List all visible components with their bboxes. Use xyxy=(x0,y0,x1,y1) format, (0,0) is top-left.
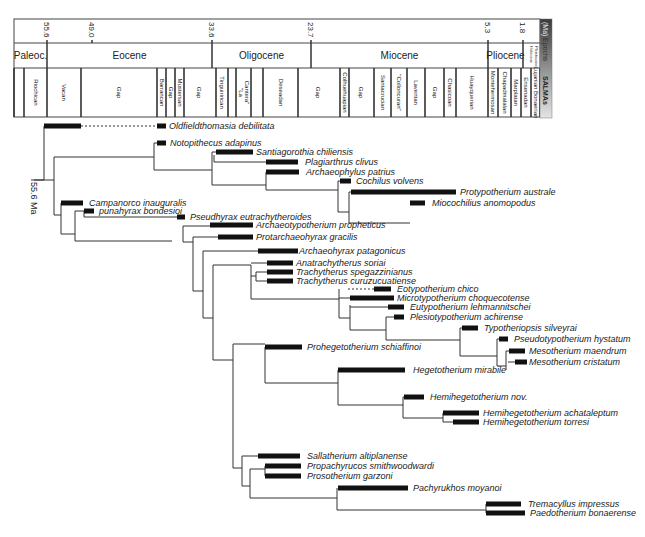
stratigraphic-range-bar xyxy=(338,368,405,373)
salma-label: "La xyxy=(238,88,244,97)
stratigraphic-range-bar xyxy=(350,296,394,301)
stratigraphic-range-bar xyxy=(216,150,253,155)
taxon-label: Protypotherium australe xyxy=(460,187,556,197)
stratigraphic-range-bar xyxy=(265,464,301,469)
axis-unit-label: (Ma) xyxy=(541,22,549,36)
stratigraphic-range-bar xyxy=(157,141,166,146)
header-side-labels: (Ma)EpochsSALMAs xyxy=(540,19,552,118)
stratigraphic-range-bar xyxy=(394,315,404,320)
salma-label: Vacan xyxy=(61,84,67,101)
stratigraphic-range-bar xyxy=(453,420,479,425)
stratigraphic-range-bar xyxy=(267,261,293,266)
stratigraphic-range-bar xyxy=(258,454,300,459)
salma-label: Ensenadan xyxy=(523,77,529,107)
stratigraphic-range-bar xyxy=(157,124,166,129)
salma-label: Gap xyxy=(358,87,364,99)
taxon-label: Plagiarthrus clivus xyxy=(305,157,379,167)
stratigraphic-range-bar xyxy=(210,223,253,228)
taxon-label: Hemihegetotherium torresi xyxy=(483,417,590,427)
stratigraphic-range-bar xyxy=(84,209,94,214)
tick-label: 49.0 xyxy=(87,22,96,38)
taxon-label: Propachyrucos smithwoodwardi xyxy=(307,461,435,471)
taxon-label: Paedotherium bonaerense xyxy=(530,508,636,518)
stratigraphic-range-bar xyxy=(351,190,456,195)
cladogram: 55.6 MaOldfieldthomasia debilitataNotopi… xyxy=(29,121,636,518)
salmas-row-label: SALMAs xyxy=(542,76,549,105)
salma-label: "Colloncuran" xyxy=(396,74,402,110)
stratigraphic-range-bar xyxy=(462,326,478,331)
taxon-label: Mesotherium maendrum xyxy=(529,346,627,356)
salma-label: Chapadmalalan xyxy=(502,71,508,113)
stratigraphic-range-bar xyxy=(267,270,293,275)
taxon-label: Typotheriopsis silveyrai xyxy=(484,323,578,333)
tick-label: 1.8 xyxy=(518,22,527,34)
epoch-label: Holocene xyxy=(529,46,534,64)
stratigraphic-range-bar xyxy=(374,287,391,292)
stratigraphic-range-bar xyxy=(499,337,508,342)
taxon-label: Pachyrukhos moyanoi xyxy=(413,483,503,493)
salma-label: Lujanian Bonaerian xyxy=(533,67,539,119)
stratigraphic-range-bar xyxy=(266,170,299,175)
stratigraphic-range-bar xyxy=(515,360,527,365)
stratigraphic-range-bar xyxy=(266,160,298,165)
stratigraphic-range-bar xyxy=(267,279,293,284)
stratigraphic-range-bar xyxy=(265,345,302,350)
stratigraphic-range-bar xyxy=(486,502,521,507)
taxon-label: Miocochilius anomopodus xyxy=(432,198,536,208)
stratigraphic-range-bar xyxy=(177,215,185,220)
taxon-label: Archaeotypotherium propheticus xyxy=(255,220,386,230)
epoch-label: Miocene xyxy=(381,50,419,61)
salma-label: Chasicoan xyxy=(447,78,453,106)
salma-label: Deseadan xyxy=(278,79,284,106)
stratigraphic-range-bar xyxy=(486,511,525,516)
node-age-annotation: 55.6 Ma xyxy=(29,182,39,215)
epoch-label: Oligocene xyxy=(239,50,284,61)
taxon-label: Prosotherium garzoni xyxy=(307,471,394,481)
tick-label: 33.6 xyxy=(207,22,216,38)
salma-label: Huayquerian xyxy=(469,75,475,109)
tick-label: 55.6 xyxy=(42,22,51,38)
tick-label: 23.7 xyxy=(306,22,315,38)
taxon-label: Eutypotherium lehmannitschei xyxy=(410,302,532,312)
taxon-label: Pseudotypotherium hystatum xyxy=(514,334,631,344)
taxon-label: Cochilus volvens xyxy=(356,176,424,186)
salma-label: Gap xyxy=(116,87,122,99)
taxon-label: Protarchaeohyrax gracilis xyxy=(256,232,358,242)
stratigraphic-range-bar xyxy=(338,486,408,491)
salma-label: Marplatan xyxy=(513,79,519,106)
taxon-label: Notopithecus adapinus xyxy=(170,138,262,148)
stratigraphic-range-bar xyxy=(218,235,253,240)
stratigraphic-range-bar xyxy=(443,411,479,416)
salma-label: Gap xyxy=(315,87,321,99)
stratigraphic-range-bar xyxy=(388,305,404,310)
stratigraphic-range-bar xyxy=(265,474,301,479)
epoch-label: Pleistocene xyxy=(534,46,539,67)
salma-label: Riochican xyxy=(33,79,39,105)
taxon-label: Hegetotherium mirabile xyxy=(413,365,506,375)
taxon-label: Hemihegetotherium nov. xyxy=(430,392,527,402)
stratigraphic-range-bar xyxy=(509,349,525,354)
tick-label: 5.3 xyxy=(483,22,492,34)
epoch-label: Eocene xyxy=(113,50,147,61)
salma-label: Barrancan xyxy=(159,79,165,107)
taxon-label: Santiagorothia chiliensis xyxy=(256,147,354,157)
salma-label: Tinguirirican xyxy=(219,76,225,108)
epochs-row-label: Epochs xyxy=(541,38,549,62)
salma-label: Gap xyxy=(432,87,438,99)
taxon-label: Sallatherium altiplanense xyxy=(307,451,408,461)
salma-label: Montehermosan xyxy=(490,71,496,114)
stratigraphic-range-bar xyxy=(404,395,424,400)
salma-label: Mustersan xyxy=(177,78,183,106)
salma-label: Laventan xyxy=(413,80,419,105)
taxon-label: Archaeohyrax patagonicus xyxy=(298,246,406,256)
stratigraphic-range-bar xyxy=(340,179,351,184)
phylogeny-figure: 55.649.033.623.75.31.8Paleoc.EoceneOligo… xyxy=(0,0,645,537)
stratigraphic-range-bar xyxy=(44,124,81,129)
stratigraphic-range-bar xyxy=(258,249,298,254)
taxon-label: Oldfieldthomasia debilitata xyxy=(169,121,275,131)
salma-label: Gap xyxy=(196,87,202,99)
chronostratigraphic-header: 55.649.033.623.75.31.8Paleoc.EoceneOligo… xyxy=(14,19,540,118)
epoch-label: Pliocene xyxy=(486,50,525,61)
taxon-label: Mesotherium cristatum xyxy=(529,357,621,367)
salma-label: Gap xyxy=(168,87,174,99)
